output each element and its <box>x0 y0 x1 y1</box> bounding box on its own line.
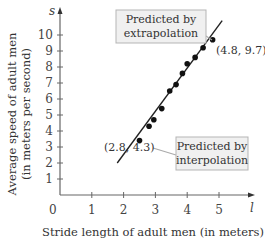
y-tick-label: 7 <box>45 76 53 90</box>
interpolation-leader-line <box>153 148 176 155</box>
data-point <box>173 82 179 88</box>
x-axis-title: Stride length of adult men (in meters) <box>42 225 264 239</box>
y-tick-label: 9 <box>45 44 53 58</box>
data-point <box>192 55 198 61</box>
data-points <box>137 37 216 143</box>
y-axis-arrow-icon <box>58 7 63 14</box>
svg-text:Predicted by: Predicted by <box>126 13 197 26</box>
data-point <box>200 45 206 51</box>
y-tick-label: 4 <box>45 124 53 138</box>
x-axis-symbol: l <box>250 201 254 215</box>
y-axis-title-line1: Average speed of adult men <box>5 32 19 196</box>
y-tick-label: 5 <box>45 108 53 122</box>
y-tick-label: 6 <box>45 92 53 106</box>
x-axis-arrow-icon <box>248 193 255 198</box>
svg-text:Predicted by: Predicted by <box>177 140 248 153</box>
point-label-4-8: (4.8, 9.7) <box>216 44 265 57</box>
x-tick-label: 2 <box>120 203 128 217</box>
y-tick-label: 1 <box>45 172 53 186</box>
data-point <box>184 61 190 67</box>
origin-label: 0 <box>49 203 57 217</box>
data-point <box>180 71 186 77</box>
data-point <box>151 117 157 123</box>
y-tick-label: 8 <box>45 60 53 74</box>
interpolation-callout: Predicted by interpolation <box>176 137 248 170</box>
svg-text:interpolation: interpolation <box>176 154 248 167</box>
y-axis-title-line2: (in meters per second) <box>19 48 33 180</box>
svg-text:extrapolation: extrapolation <box>124 27 198 40</box>
data-point <box>159 106 165 112</box>
scatter-chart: 12345 12345678910 s l 0 Stride length of… <box>0 0 265 243</box>
x-tick-label: 1 <box>88 203 96 217</box>
data-point <box>146 123 152 129</box>
x-tick-label: 5 <box>215 203 223 217</box>
extrapolation-callout: Predicted by extrapolation <box>116 10 206 43</box>
y-tick-label: 2 <box>45 156 53 170</box>
y-ticks: 12345678910 <box>38 28 63 186</box>
y-axis-symbol: s <box>49 4 55 18</box>
x-tick-label: 3 <box>152 203 160 217</box>
y-tick-label: 3 <box>45 140 53 154</box>
data-point <box>167 88 173 94</box>
x-tick-label: 4 <box>183 203 191 217</box>
x-ticks: 12345 <box>88 192 223 217</box>
point-label-2-8: (2.8, 4.3) <box>104 141 155 154</box>
y-tick-label: 10 <box>38 28 53 42</box>
